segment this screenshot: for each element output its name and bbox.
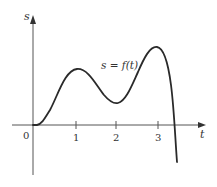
s-axis-label: s xyxy=(24,10,30,23)
tick-label-2: 2 xyxy=(113,132,119,143)
curve-label: s = f(t) xyxy=(101,59,138,71)
tick-label-3: 3 xyxy=(155,132,161,143)
position-time-graph: s t 0 1 2 3 s = f(t) xyxy=(0,0,217,187)
t-axis-label: t xyxy=(200,128,205,141)
origin-label: 0 xyxy=(23,130,29,141)
s-axis-arrow-icon xyxy=(30,15,36,24)
tick-label-1: 1 xyxy=(73,132,79,143)
